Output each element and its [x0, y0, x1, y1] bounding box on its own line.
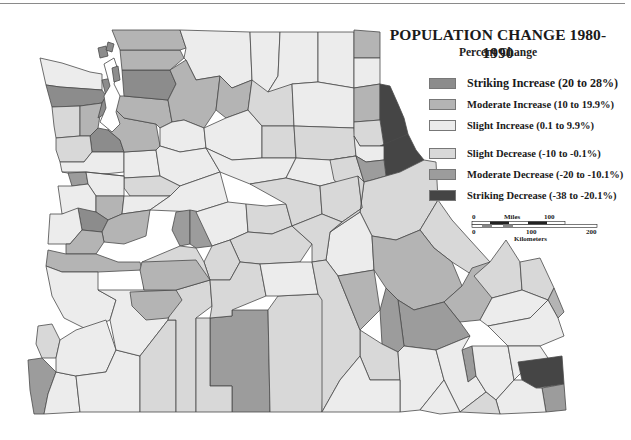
county[interactable] — [124, 150, 160, 178]
county[interactable] — [122, 70, 176, 100]
legend-swatch — [429, 190, 456, 201]
legend-item-slight-increase: Slight Increase (0.1 to 9.9%) — [429, 118, 594, 132]
county[interactable] — [68, 172, 88, 186]
scale-bar: 0 Miles 100 0 100 200 Kilometers — [470, 213, 600, 243]
legend-label: Slight Increase (0.1 to 9.9%) — [467, 120, 594, 131]
map-subtitle: Percent Change — [378, 46, 618, 58]
legend-swatch — [429, 78, 456, 89]
scale-miles-tick-100: 100 — [544, 213, 555, 221]
legend-item-moderate-decrease: Moderate Decrease (-20 to -10.1%) — [429, 167, 623, 181]
county[interactable] — [262, 126, 296, 158]
legend-label: Striking Decrease (-38 to -20.1%) — [467, 190, 616, 201]
county[interactable] — [172, 210, 190, 246]
legend-item-striking-decrease: Striking Decrease (-38 to -20.1%) — [429, 188, 616, 202]
county[interactable] — [294, 126, 356, 160]
legend-label: Striking Increase (20 to 28%) — [467, 76, 618, 91]
legend-swatch — [429, 99, 456, 110]
scale-km-tick-0: 0 — [472, 228, 476, 236]
county[interactable] — [56, 136, 92, 162]
legend-item-slight-decrease: Slight Decrease (-10 to -0.1%) — [429, 146, 601, 160]
county[interactable] — [318, 32, 354, 88]
county[interactable] — [354, 84, 380, 122]
county[interactable] — [354, 30, 380, 58]
county[interactable] — [268, 294, 326, 412]
county[interactable] — [36, 324, 60, 358]
legend-swatch — [429, 169, 456, 180]
county[interactable] — [354, 120, 384, 146]
legend-label: Moderate Increase (10 to 19.9%) — [467, 99, 614, 110]
legend-label: Slight Decrease (-10 to -0.1%) — [467, 148, 601, 159]
island — [106, 42, 114, 52]
state-oregon — [28, 172, 400, 414]
county[interactable] — [56, 320, 116, 376]
county[interactable] — [354, 58, 380, 88]
scale-km-tick-200: 200 — [586, 228, 597, 236]
scale-miles-tick-0: 0 — [472, 213, 476, 221]
county[interactable] — [292, 82, 354, 128]
legend-swatch — [429, 148, 456, 159]
legend-swatch — [429, 120, 456, 131]
state-washington — [40, 30, 364, 196]
legend-label: Moderate Decrease (-20 to -10.1%) — [467, 169, 623, 180]
legend-item-striking-increase: Striking Increase (20 to 28%) — [429, 76, 618, 90]
scale-km-label: Kilometers — [514, 235, 547, 243]
legend-item-moderate-increase: Moderate Increase (10 to 19.9%) — [429, 97, 614, 111]
county[interactable] — [260, 262, 318, 296]
county[interactable] — [52, 106, 80, 138]
county[interactable] — [112, 30, 186, 50]
scale-miles-label: Miles — [504, 213, 520, 221]
